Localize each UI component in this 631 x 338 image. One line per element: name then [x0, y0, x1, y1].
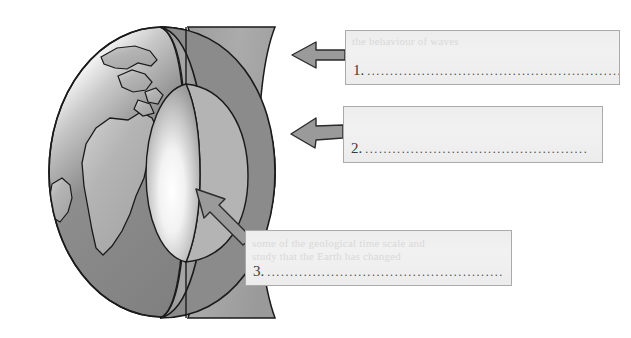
answer-box-2[interactable]: 2. .....................................…	[343, 106, 603, 163]
answer-box-3[interactable]: some of the geological time scale and st…	[245, 230, 512, 286]
answer-box-1[interactable]: the behaviour of waves 1. ..............…	[345, 30, 620, 85]
answer-number-2: 2.	[351, 140, 362, 157]
answer-line-3[interactable]: 3. .....................................…	[253, 263, 510, 280]
arrow-to-crust	[292, 42, 345, 68]
worksheet-page: the behaviour of waves 1. ..............…	[0, 0, 631, 338]
arrow-to-mantle	[291, 118, 343, 148]
answer-line-1[interactable]: 1. .....................................…	[353, 62, 619, 79]
answer-line-2[interactable]: 2. .....................................…	[351, 140, 598, 157]
answer-number-1: 1.	[353, 62, 364, 79]
answer-dots-1: ........................................…	[367, 64, 619, 79]
answer-dots-3: ........................................…	[267, 265, 510, 280]
ghost-text-3: some of the geological time scale and st…	[252, 237, 505, 263]
answer-dots-2: ........................................…	[365, 142, 598, 157]
ghost-text-1: the behaviour of waves	[352, 35, 613, 48]
answer-number-3: 3.	[253, 263, 264, 280]
